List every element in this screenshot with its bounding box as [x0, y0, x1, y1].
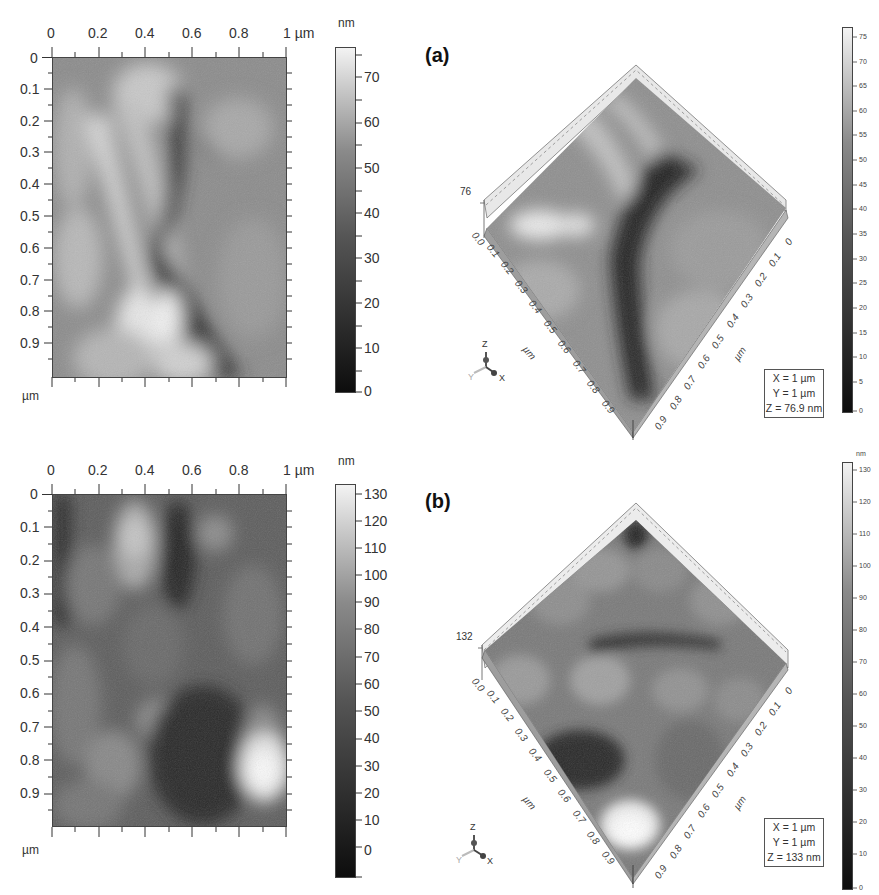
triad-y-label: Y [456, 856, 462, 865]
colorbar-3d-tick: 20 [859, 818, 867, 825]
colorbar-3d-tick: 40 [859, 754, 867, 761]
surface-3d [0, 0, 879, 895]
colorbar-3d-tick: 130 [859, 466, 871, 473]
triad-x-label: X [487, 857, 493, 866]
dimensions-box: X = 1 µm Y = 1 µm Z = 133 nm [764, 818, 824, 867]
colorbar-3d-tick: 100 [859, 562, 871, 569]
colorbar-3d-tick: 30 [859, 786, 867, 793]
colorbar-3d-tick: 50 [859, 722, 867, 729]
colorbar-3d-ticks [853, 462, 859, 890]
colorbar-3d-tick: 120 [859, 498, 871, 505]
dim-z: Z = 133 nm [765, 850, 823, 865]
colorbar-3d-tick: 110 [859, 530, 870, 537]
dim-y: Y = 1 µm [765, 835, 823, 850]
colorbar-3d-unit: nm [856, 450, 866, 457]
colorbar-3d-tick: 10 [859, 850, 867, 857]
triad-z-label: Z [470, 823, 476, 832]
axis-triad-icon [462, 835, 486, 859]
colorbar-3d-tick: 80 [859, 626, 867, 633]
colorbar-3d-tick: 70 [859, 658, 867, 665]
z-max-label: 132 [456, 632, 473, 642]
dim-x: X = 1 µm [765, 820, 823, 835]
colorbar-3d-tick: 90 [859, 594, 867, 601]
colorbar-3d-tick: 60 [859, 690, 867, 697]
colorbar-3d-tick: 0 [859, 884, 863, 891]
colorbar-3d [842, 462, 853, 890]
